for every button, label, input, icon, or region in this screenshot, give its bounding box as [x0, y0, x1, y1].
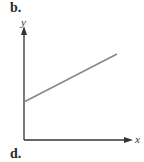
y-axis-label: y [20, 16, 26, 28]
line-chart: y x [0, 0, 144, 162]
x-axis-arrow-icon [124, 137, 133, 143]
x-axis-label: x [134, 133, 140, 145]
panel-label-d: d. [10, 146, 21, 162]
data-line [24, 54, 117, 102]
